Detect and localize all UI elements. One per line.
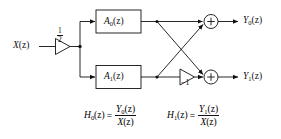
block-a0-arg: (z) bbox=[113, 16, 124, 26]
equation-h0-lhs: H0(z) bbox=[84, 110, 105, 121]
equation-h0-den-arg: (z) bbox=[123, 117, 134, 127]
equation-h0-lhs-base: H bbox=[84, 110, 91, 120]
gain-half-denominator: 2 bbox=[57, 35, 63, 44]
equation-h1-denominator: X(z) bbox=[198, 115, 218, 127]
equation-h1-lhs-base: H bbox=[167, 110, 174, 120]
block-a1-label: A1(z) bbox=[104, 72, 124, 82]
junction-a1-branch bbox=[155, 75, 158, 78]
equation-h0-num-arg: (z) bbox=[125, 104, 136, 114]
output-label-y0: Y0(z) bbox=[243, 16, 262, 26]
output-y1-arg: (z) bbox=[252, 71, 263, 81]
figure-container: X(z) 1 2 A0(z) A1(z) −1 Y0(z) Y1(z) H0(z… bbox=[0, 0, 281, 139]
gain-minus-one-label: −1 bbox=[181, 79, 190, 87]
equation-h1-fraction: Y1(z) X(z) bbox=[197, 104, 220, 127]
wire-cross-top-to-bottom-adder bbox=[157, 22, 203, 75]
input-label-xz: X(z) bbox=[13, 41, 29, 51]
output-y0-arg: (z) bbox=[252, 15, 263, 25]
gain-half-numerator: 1 bbox=[57, 27, 63, 35]
block-a1-arg: (z) bbox=[113, 71, 124, 81]
equation-h0-denominator: X(z) bbox=[115, 115, 135, 127]
input-label-arg: (z) bbox=[19, 40, 30, 50]
equation-h0-numerator: Y0(z) bbox=[114, 104, 137, 115]
equation-h0: H0(z) = Y0(z) X(z) bbox=[84, 104, 137, 127]
block-a0-label: A0(z) bbox=[104, 17, 124, 27]
equation-h1: H1(z) = Y1(z) X(z) bbox=[167, 104, 220, 127]
equation-h0-fraction: Y0(z) X(z) bbox=[114, 104, 137, 127]
junction-split bbox=[78, 45, 81, 48]
gain-half-label: 1 2 bbox=[57, 26, 63, 44]
output-label-y1: Y1(z) bbox=[243, 72, 262, 82]
equation-h1-lhs-arg: (z) bbox=[177, 110, 188, 120]
equation-h1-den-arg: (z) bbox=[206, 117, 217, 127]
block-diagram-canvas bbox=[0, 0, 281, 139]
equation-h1-numerator: Y1(z) bbox=[197, 104, 220, 115]
junction-a0-branch bbox=[155, 20, 158, 23]
equation-h0-lhs-arg: (z) bbox=[94, 110, 105, 120]
equation-h1-num-arg: (z) bbox=[208, 104, 219, 114]
equation-h1-equals: = bbox=[190, 111, 195, 121]
equation-h0-equals: = bbox=[107, 111, 112, 121]
equation-h1-lhs: H1(z) bbox=[167, 110, 188, 121]
